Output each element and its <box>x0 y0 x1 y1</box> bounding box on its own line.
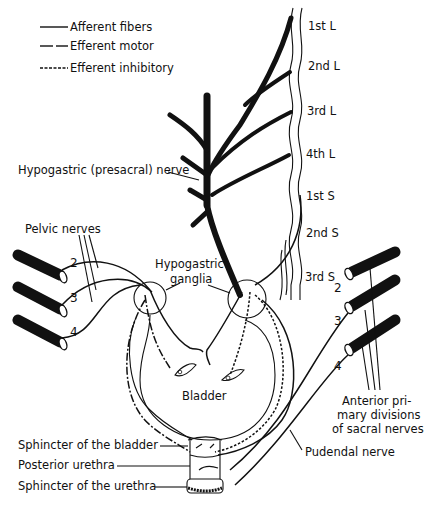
ganglia-leader-right <box>208 285 230 293</box>
segment-2nd-l: 2nd L <box>308 59 341 73</box>
sympathetic-chain <box>170 18 291 295</box>
left-root-2-label: 2 <box>70 256 78 270</box>
spinal-cord <box>280 8 302 300</box>
anterior-leader-3 <box>362 345 369 390</box>
pudendal-nerve-fiber-2 <box>235 355 348 485</box>
anterior-label-3: of sacral nerves <box>332 422 424 436</box>
hypogastric-ganglia-label-2: ganglia <box>170 272 212 286</box>
bladder-wall <box>140 315 275 440</box>
legend: Afferent fibers Efferent motor Efferent … <box>40 20 174 75</box>
bladder-muscle-icon-left <box>175 364 196 376</box>
sphincter-urethra-label: Sphincter of the urethra <box>18 479 156 493</box>
right-root-2-label: 2 <box>334 281 342 295</box>
bladder-innervation-diagram: Afferent fibers Efferent motor Efferent … <box>0 0 430 506</box>
anterior-label-2: mary divisions <box>337 408 420 422</box>
segment-labels: 1st L 2nd L 3rd L 4th L 1st S 2nd S 3rd … <box>305 19 341 284</box>
segment-1st-s: 1st S <box>306 189 335 203</box>
pudendal-leader <box>290 430 302 450</box>
legend-efferent-motor: Efferent motor <box>70 39 154 53</box>
left-sacral-roots <box>18 255 68 351</box>
bladder-muscle-icon-right <box>222 369 244 380</box>
segment-3rd-s: 3rd S <box>305 270 335 284</box>
hypogastric-ganglion-left <box>134 282 166 314</box>
efferent-inhibitory-outer-right <box>215 295 283 452</box>
sphincter-bladder-label: Sphincter of the bladder <box>18 438 158 452</box>
urethra <box>187 437 223 493</box>
efferent-inhibitory-right <box>230 292 250 375</box>
segment-3rd-l: 3rd L <box>307 104 337 118</box>
bladder-label: Bladder <box>182 389 227 403</box>
legend-afferent: Afferent fibers <box>70 20 152 34</box>
segment-1st-l: 1st L <box>308 19 336 33</box>
pudendal-nerve-label: Pudendal nerve <box>305 445 395 459</box>
pelvic-nerve-to-bladder <box>150 290 203 352</box>
hypogastric-ganglia-label-1: Hypogastric <box>155 257 224 271</box>
sacral-afferent-right <box>255 195 301 285</box>
hypogastric-afferent-inner <box>206 292 242 365</box>
posterior-urethra-label: Posterior urethra <box>18 458 115 472</box>
pelvic-leader-1 <box>79 235 92 302</box>
segment-2nd-s: 2nd S <box>306 226 339 240</box>
pelvic-nerves-label: Pelvic nerves <box>25 222 101 236</box>
bladder-outer-curve-left <box>130 320 192 440</box>
anterior-label-1: Anterior pri- <box>342 394 411 408</box>
anterior-leader-2 <box>365 310 375 390</box>
segment-4th-l: 4th L <box>306 147 336 161</box>
legend-efferent-inhibitory: Efferent inhibitory <box>70 61 174 75</box>
hypogastric-nerve-label: Hypogastric (presacral) nerve <box>18 163 189 177</box>
